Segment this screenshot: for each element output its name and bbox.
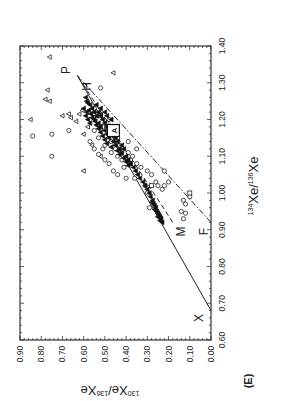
- mixing-line-dashdot: [77, 75, 211, 222]
- y-tick-label: 0.90: [15, 345, 25, 362]
- circle-marker: [96, 136, 100, 140]
- triangle-marker: [47, 99, 51, 103]
- y-tick-label: 0.20: [164, 345, 174, 362]
- circle-marker: [111, 169, 115, 173]
- y-tick-label: 0.10: [185, 345, 195, 362]
- panel-label: (E): [242, 373, 254, 388]
- circle-marker: [92, 128, 96, 132]
- end-member-label-h: H: [80, 82, 94, 91]
- triangle-marker: [28, 117, 32, 121]
- circle-marker: [107, 162, 111, 166]
- end-member-label-m: M: [174, 227, 188, 237]
- x-axis-tick-labels: 0.600.700.800.901.001.101.201.301.40: [217, 37, 227, 348]
- circle-marker: [50, 154, 54, 158]
- x-tick-label: 1.10: [217, 148, 227, 165]
- circle-marker: [149, 173, 153, 177]
- filled-marker: [83, 113, 87, 118]
- circle-marker: [156, 184, 160, 188]
- filled-marker: [109, 145, 113, 150]
- triangle-marker: [69, 115, 73, 119]
- circle-marker: [145, 169, 149, 173]
- circle-marker: [166, 180, 170, 184]
- circle-marker: [126, 139, 130, 143]
- end-member-label-p: P: [59, 66, 73, 74]
- y-tick-label: 0.30: [142, 345, 152, 362]
- y-axis-title: 130Xe/136Xe: [81, 383, 140, 398]
- triangle-marker: [66, 112, 70, 116]
- circle-marker: [116, 173, 120, 177]
- y-tick-label: 0.80: [36, 345, 46, 362]
- circle-marker: [162, 169, 166, 173]
- circle-marker: [122, 165, 126, 169]
- x-tick-label: 0.70: [217, 295, 227, 312]
- end-member-label-x: X: [192, 314, 206, 322]
- triangle-marker: [43, 97, 47, 101]
- circle-marker: [126, 150, 130, 154]
- x-tick-label: 1.30: [217, 74, 227, 91]
- triangle-marker: [111, 71, 115, 75]
- circle-marker: [99, 86, 103, 90]
- triangle-marker: [81, 132, 85, 136]
- circle-marker: [96, 152, 100, 156]
- circle-marker: [162, 184, 166, 188]
- data-points: [28, 55, 192, 225]
- circle-marker: [124, 176, 128, 180]
- x-axis-title: 134Xe/136Xe: [246, 157, 261, 216]
- x-tick-label: 1.40: [217, 37, 227, 54]
- circle-marker: [50, 132, 54, 136]
- x-tick-label: 1.20: [217, 111, 227, 128]
- circle-marker: [133, 176, 137, 180]
- circle-marker: [103, 158, 107, 162]
- circle-marker: [88, 139, 92, 143]
- circle-marker: [109, 150, 113, 154]
- y-tick-label: 0.50: [100, 345, 110, 362]
- triangle-marker: [45, 88, 49, 92]
- circle-marker: [135, 147, 139, 151]
- circle-marker: [31, 134, 35, 138]
- triangle-marker: [60, 114, 64, 118]
- circle-marker: [147, 206, 151, 210]
- y-tick-label: 0.60: [79, 345, 89, 362]
- square-marker: [188, 191, 192, 195]
- circle-marker: [179, 209, 183, 213]
- y-tick-label: 0.70: [57, 345, 67, 362]
- triangle-marker: [77, 112, 81, 116]
- triangle-marker: [86, 125, 90, 129]
- circle-marker: [139, 165, 143, 169]
- xenon-isotope-figure: PHAMFX 0.600.700.800.901.001.101.201.301…: [0, 0, 286, 401]
- y-tick-label: 0.40: [121, 345, 131, 362]
- end-member-label-f: F: [197, 228, 211, 235]
- triangle-marker: [47, 55, 51, 59]
- triangle-marker: [74, 119, 78, 123]
- y-tick-label: 0.00: [206, 345, 216, 362]
- circle-marker: [183, 211, 187, 215]
- circle-marker: [181, 217, 185, 221]
- circle-marker: [183, 202, 187, 206]
- x-tick-label: 1.00: [217, 184, 227, 201]
- circle-marker: [67, 128, 71, 132]
- x-tick-label: 0.90: [217, 221, 227, 238]
- y-axis-tick-labels: 0.000.100.200.300.400.500.600.700.800.90: [15, 345, 216, 362]
- square-marker: [150, 184, 154, 188]
- circle-marker: [92, 147, 96, 151]
- end-member-label-a: A: [110, 127, 119, 133]
- filled-marker: [83, 95, 87, 100]
- triangle-marker: [81, 169, 85, 173]
- x-tick-label: 0.60: [217, 331, 227, 348]
- scatter-chart: PHAMFX 0.600.700.800.901.001.101.201.301…: [0, 0, 286, 401]
- x-tick-label: 0.80: [217, 258, 227, 275]
